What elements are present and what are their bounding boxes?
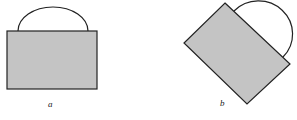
panel-b: b <box>184 1 293 108</box>
figure-canvas: a b <box>0 0 297 120</box>
panel-label-b: b <box>220 98 225 108</box>
rectangle-b <box>184 3 290 104</box>
panel-label-a: a <box>48 99 53 109</box>
semicircle-arc-a <box>18 7 88 31</box>
rectangle-a <box>7 31 97 89</box>
panel-a: a <box>7 7 97 109</box>
